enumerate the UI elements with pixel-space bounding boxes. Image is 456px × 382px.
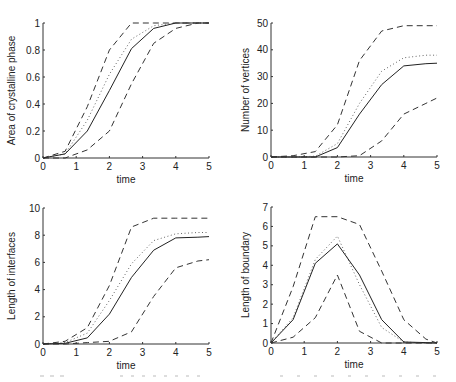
x-tick-label: 3 (140, 347, 146, 358)
y-tick-label: 10 (257, 125, 269, 136)
y-tick-label: 7 (262, 202, 268, 213)
x-tick-label: 0 (268, 346, 274, 357)
series-line-lower (271, 98, 437, 157)
y-tick-label: 0 (262, 152, 268, 163)
series-line-lower (43, 23, 209, 158)
x-tick-label: 0 (268, 160, 274, 171)
series-line-median (271, 63, 437, 157)
x-tick-label: 1 (301, 160, 307, 171)
x-tick-label: 0 (40, 347, 46, 358)
x-tick-label: 5 (434, 160, 440, 171)
series-line-upper (271, 26, 437, 157)
x-tick-label: 2 (335, 160, 341, 171)
x-axis-label: time (117, 174, 136, 185)
series-line-upper (271, 217, 437, 343)
x-tick-label: 5 (206, 347, 212, 358)
series-line-median (271, 244, 437, 343)
y-tick-label: 1 (34, 18, 40, 29)
x-tick-label: 1 (301, 346, 307, 357)
series-line-median (43, 23, 209, 158)
series-line-median (43, 237, 209, 344)
x-tick-label: 3 (368, 160, 374, 171)
y-tick-label: 0 (34, 153, 40, 164)
series-line-mean (271, 55, 437, 157)
x-tick-label: 5 (434, 346, 440, 357)
y-tick-label: 0.4 (26, 99, 40, 110)
series-line-upper (43, 218, 209, 344)
y-tick-label: 20 (257, 98, 269, 109)
y-tick-label: 4 (34, 284, 40, 295)
y-tick-label: 0 (34, 339, 40, 350)
y-tick-label: 0.2 (26, 126, 40, 137)
y-tick-label: 5 (262, 240, 268, 251)
subplot-3: 0123450246810timeLength of interfaces (6, 203, 212, 372)
y-axis-label: Length of boundary (240, 232, 251, 318)
y-tick-label: 8 (34, 230, 40, 241)
y-tick-label: 0 (262, 338, 268, 349)
y-tick-label: 6 (262, 221, 268, 232)
x-tick-label: 2 (107, 347, 113, 358)
y-tick-label: 40 (257, 44, 269, 55)
y-tick-label: 2 (262, 299, 268, 310)
x-tick-label: 1 (73, 347, 79, 358)
y-tick-label: 0.8 (26, 45, 40, 56)
x-axis-label: time (345, 359, 364, 370)
y-tick-label: 1 (262, 318, 268, 329)
x-tick-label: 4 (173, 161, 179, 172)
series-line-upper (43, 23, 209, 158)
y-tick-label: 0.6 (26, 72, 40, 83)
y-axis-label: Length of interfaces (6, 232, 17, 320)
y-tick-label: 3 (262, 279, 268, 290)
subplot-2: 01234501020304050timeNumber of vertices (240, 18, 440, 185)
figure: 01234500.20.40.60.81timeArea of crystall… (0, 0, 456, 382)
x-tick-label: 3 (140, 161, 146, 172)
y-tick-label: 4 (262, 260, 268, 271)
series-line-mean (43, 233, 209, 345)
x-tick-label: 4 (401, 160, 407, 171)
cropped-caption-fragment (0, 370, 456, 382)
x-tick-label: 2 (335, 346, 341, 357)
subplot-4: 01234501234567timeLength of boundary (240, 202, 440, 371)
y-axis-label: Number of vertices (240, 48, 251, 132)
x-tick-label: 4 (401, 346, 407, 357)
x-tick-label: 2 (107, 161, 113, 172)
series-line-lower (43, 260, 209, 344)
subplot-1: 01234500.20.40.60.81timeArea of crystall… (6, 18, 212, 186)
y-tick-label: 2 (34, 311, 40, 322)
x-tick-label: 4 (173, 347, 179, 358)
y-tick-label: 6 (34, 257, 40, 268)
series-line-mean (43, 23, 209, 158)
x-tick-label: 0 (40, 161, 46, 172)
x-tick-label: 1 (73, 161, 79, 172)
y-axis-label: Area of crystalline phase (6, 35, 17, 145)
y-tick-label: 30 (257, 71, 269, 82)
x-tick-label: 5 (206, 161, 212, 172)
x-axis-label: time (345, 173, 364, 184)
y-tick-label: 10 (29, 203, 41, 214)
x-tick-label: 3 (368, 346, 374, 357)
y-tick-label: 50 (257, 18, 269, 29)
